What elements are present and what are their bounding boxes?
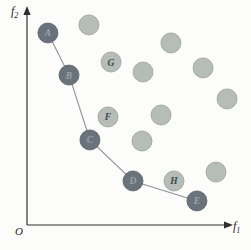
y-axis-label: f2	[11, 5, 18, 20]
origin-label: O	[15, 226, 23, 237]
x-axis-label-sub: 1	[236, 226, 240, 235]
light-point-3-marker	[79, 15, 99, 35]
point-label-H: H	[169, 176, 178, 186]
point-label-D: D	[129, 176, 137, 186]
pareto-scatter-figure: ABCDEGFH f2 f1 O	[0, 0, 251, 250]
light-point-8-marker	[151, 105, 171, 125]
light-point-5-marker	[133, 62, 153, 82]
point-label-F: F	[104, 112, 112, 122]
point-label-E: E	[193, 196, 200, 206]
point-label-C: C	[87, 135, 94, 145]
light-point-4-marker	[161, 33, 181, 53]
scatter-plot-canvas: ABCDEGFH	[0, 0, 251, 250]
point-label-B: B	[65, 71, 72, 81]
light-point-10-marker	[206, 162, 226, 182]
point-label-A: A	[44, 28, 51, 38]
y-axis-label-sub: 2	[14, 11, 18, 20]
light-point-9-marker	[132, 131, 152, 151]
light-point-6-marker	[193, 58, 213, 78]
light-point-7-marker	[217, 89, 237, 109]
y-axis-arrow-icon	[23, 6, 30, 15]
x-axis-label: f1	[233, 220, 240, 235]
x-axis-arrow-icon	[224, 221, 233, 228]
point-label-G: G	[108, 58, 115, 68]
